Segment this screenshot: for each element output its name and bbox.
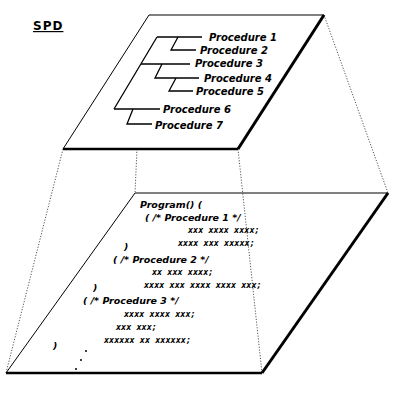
- continuation-dots: [75, 350, 87, 370]
- diagram-title: SPD: [33, 19, 63, 33]
- code-line: ( /* Procedure 1 */: [145, 212, 242, 223]
- code-line: xxxx xxxx xxx;: [123, 309, 196, 319]
- continuation-dot: [75, 368, 77, 370]
- procedure-label: Procedure 3: [195, 58, 263, 69]
- code-line: xxxx xxx xxxxx;: [177, 238, 255, 248]
- projection-line-right: [324, 15, 388, 193]
- code-line: ): [52, 340, 57, 351]
- code-line: xxx xxxx xxxx;: [187, 225, 260, 235]
- code-line: ( /* Procedure 3 */: [83, 295, 180, 306]
- code-line: xx xxx xxxx;: [151, 267, 213, 277]
- continuation-dot: [80, 359, 82, 361]
- projection-line-middle: [135, 149, 137, 193]
- code-line: xxxxxx xx xxxxxx;: [103, 335, 191, 345]
- plane-edge-right: [262, 193, 388, 373]
- projection-line-inner-right: [238, 149, 262, 373]
- procedure-label: Procedure 5: [196, 86, 264, 97]
- code-lines: Program() ( ( /* Procedure 1 */ xxx xxxx…: [52, 199, 262, 351]
- code-line: ): [123, 241, 128, 252]
- procedure-label: Procedure 1: [209, 32, 277, 43]
- spd-diagram: SPD Procedure 1 Procedure 2 Procedure 3 …: [0, 0, 400, 393]
- code-line: xxx xxx;: [115, 322, 157, 332]
- continuation-dot: [85, 350, 87, 352]
- code-line: Program() (: [140, 199, 203, 210]
- procedure-label: Procedure 7: [155, 120, 223, 131]
- procedure-label: Procedure 6: [163, 104, 231, 115]
- plane-edge-left: [6, 193, 135, 373]
- code-line: ): [92, 282, 97, 293]
- procedure-label: Procedure 2: [200, 45, 268, 56]
- procedure-label: Procedure 4: [204, 73, 272, 84]
- code-line: xxxx xxx xxxx xxxx xxx;: [143, 280, 262, 290]
- code-line: ( /* Procedure 2 */: [113, 254, 210, 265]
